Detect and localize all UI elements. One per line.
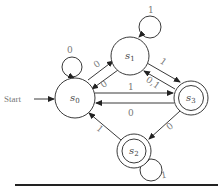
state-s2: s2 — [117, 134, 151, 168]
loop-s0-s0: 0 — [62, 45, 82, 78]
state-s0: s0 — [55, 78, 95, 118]
state-s1: s1 — [111, 37, 149, 75]
start-label: Start — [4, 94, 21, 104]
edge-s2-s0: 1 — [89, 113, 121, 140]
transition-label: 1 — [158, 56, 168, 67]
transition-label: 1 — [94, 123, 105, 134]
state-diagram: Start 0 1 1 0 0 1 0,1 1 0 — [0, 0, 218, 188]
edge-s3-s0: 0 — [96, 103, 174, 118]
loop-s1-s1: 1 — [139, 5, 161, 38]
transition-label: 0,1 — [144, 74, 161, 90]
edge-s3-s2: 0 — [149, 111, 180, 139]
transition-label: 0 — [92, 58, 103, 70]
transition-label: 1 — [128, 82, 134, 92]
transition-label: 0 — [128, 108, 134, 118]
state-s3: s3 — [174, 81, 208, 115]
transition-label: 1 — [160, 170, 167, 181]
edge-s3-s1: 0,1 — [144, 71, 175, 91]
edge-s1-s0: 0 — [92, 70, 118, 90]
transition-label: 1 — [148, 5, 154, 15]
transition-label: 0 — [67, 45, 73, 55]
transition-label: 0 — [99, 78, 110, 90]
transition-label: 0 — [164, 121, 175, 133]
start-arrow: Start — [4, 94, 54, 104]
